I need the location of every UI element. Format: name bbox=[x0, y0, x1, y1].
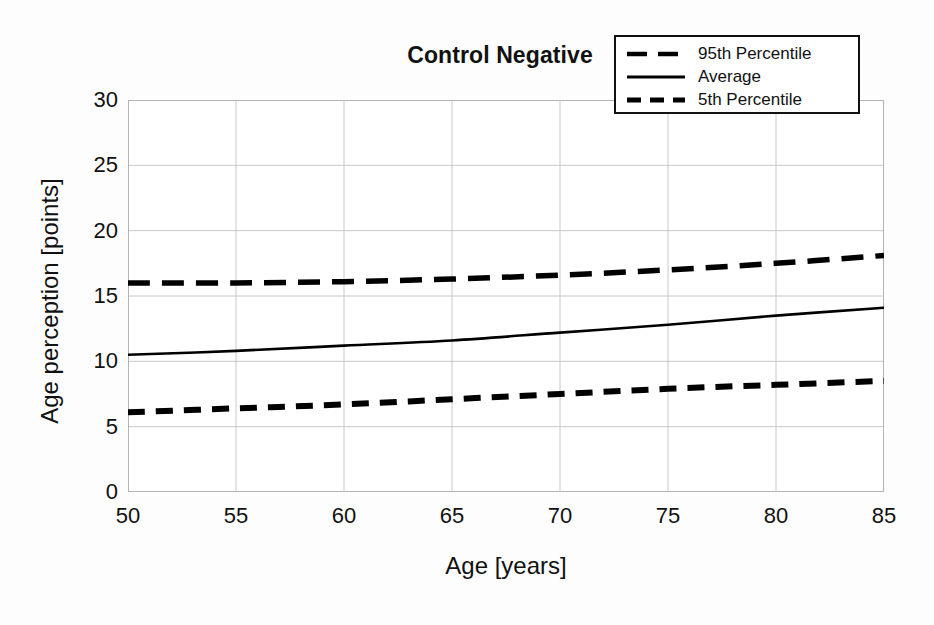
x-tick-85: 85 bbox=[854, 505, 914, 527]
x-tick-75: 75 bbox=[638, 505, 698, 527]
y-tick-20: 20 bbox=[72, 220, 118, 242]
legend-swatch-dashed-icon bbox=[625, 47, 687, 61]
legend-label-95th: 95th Percentile bbox=[698, 45, 811, 62]
x-axis-title: Age [years] bbox=[128, 552, 884, 580]
chart-figure: Control Negative 30 25 20 15 10 5 0 50 5… bbox=[0, 0, 934, 625]
y-tick-30: 30 bbox=[72, 89, 118, 111]
y-tick-25: 25 bbox=[72, 154, 118, 176]
x-axis-tick-labels: 50 55 60 65 70 75 80 85 bbox=[128, 505, 884, 535]
y-tick-15: 15 bbox=[72, 285, 118, 307]
y-axis-tick-labels: 30 25 20 15 10 5 0 bbox=[72, 100, 118, 492]
x-tick-65: 65 bbox=[422, 505, 482, 527]
plot-area bbox=[128, 100, 884, 492]
y-axis-title: Age perception [points] bbox=[36, 105, 64, 497]
legend-item-average: Average bbox=[616, 65, 858, 88]
plot-canvas bbox=[128, 100, 884, 492]
x-tick-80: 80 bbox=[746, 505, 806, 527]
chart-legend: 95th Percentile Average 5th Percentile bbox=[614, 35, 860, 114]
legend-swatch-solid-icon bbox=[625, 70, 687, 84]
x-tick-60: 60 bbox=[314, 505, 374, 527]
x-tick-50: 50 bbox=[98, 505, 158, 527]
x-tick-70: 70 bbox=[530, 505, 590, 527]
chart-title: Control Negative bbox=[370, 42, 630, 69]
legend-swatch-dashed-2-icon bbox=[625, 93, 687, 107]
x-tick-55: 55 bbox=[206, 505, 266, 527]
y-tick-10: 10 bbox=[72, 350, 118, 372]
legend-label-average: Average bbox=[698, 68, 761, 85]
y-tick-0: 0 bbox=[72, 481, 118, 503]
y-tick-5: 5 bbox=[72, 416, 118, 438]
legend-item-95th: 95th Percentile bbox=[616, 42, 858, 65]
legend-item-5th: 5th Percentile bbox=[616, 88, 858, 111]
legend-label-5th: 5th Percentile bbox=[698, 91, 802, 108]
